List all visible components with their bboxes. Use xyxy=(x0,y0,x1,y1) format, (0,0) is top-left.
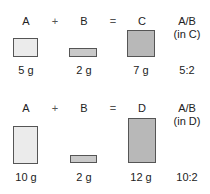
value-b: 2 g xyxy=(76,64,91,76)
label-product: C xyxy=(138,15,146,27)
box-product xyxy=(128,118,156,163)
equals-sign: = xyxy=(110,15,116,27)
label-a: A xyxy=(22,102,29,114)
value-b: 2 g xyxy=(76,171,91,183)
value-ratio: 5:2 xyxy=(179,64,194,76)
ratio-title: A/B xyxy=(178,15,196,27)
label-product: D xyxy=(138,102,146,114)
ratio-subtitle: (in C) xyxy=(174,28,201,40)
box-product xyxy=(127,30,155,57)
label-b: B xyxy=(80,15,87,27)
ratio-title: A/B xyxy=(178,102,196,114)
value-ratio: 10:2 xyxy=(176,171,197,183)
box-b xyxy=(70,155,97,163)
plus-sign: + xyxy=(52,102,58,114)
value-product: 12 g xyxy=(130,171,151,183)
plus-sign: + xyxy=(52,15,58,27)
value-a: 5 g xyxy=(18,64,33,76)
ratio-subtitle: (in D) xyxy=(174,115,201,127)
box-b xyxy=(69,48,97,57)
value-product: 7 g xyxy=(133,64,148,76)
box-a xyxy=(13,38,38,57)
label-a: A xyxy=(22,15,29,27)
box-a xyxy=(13,126,38,164)
value-a: 10 g xyxy=(15,171,36,183)
equals-sign: = xyxy=(110,102,116,114)
label-b: B xyxy=(80,102,87,114)
